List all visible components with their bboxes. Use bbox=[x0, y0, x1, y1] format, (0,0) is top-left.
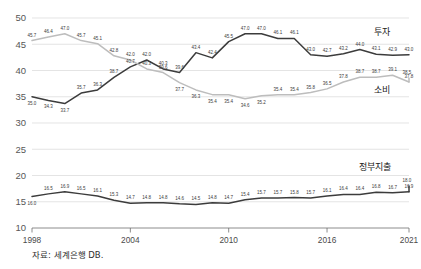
data-label: 42.4 bbox=[208, 50, 217, 55]
x-axis-labels: 19982004201020162021 bbox=[23, 235, 419, 245]
y-axis-tick-label: 50 bbox=[15, 12, 26, 23]
data-label: 36.3 bbox=[192, 94, 201, 99]
data-label: 37.8 bbox=[339, 74, 348, 79]
data-label: 43.1 bbox=[372, 46, 381, 51]
data-label: 16.0 bbox=[28, 201, 37, 206]
data-label: 42.0 bbox=[142, 52, 151, 57]
data-label: 42.8 bbox=[110, 48, 119, 53]
data-label: 36.5 bbox=[323, 81, 332, 86]
data-label: 16.9 bbox=[60, 184, 69, 189]
data-label: 39.6 bbox=[175, 65, 184, 70]
data-label: 34.6 bbox=[241, 103, 250, 108]
y-axis-labels: 101520253035404550 bbox=[15, 12, 26, 233]
series-line bbox=[32, 192, 409, 205]
data-label: 16.5 bbox=[44, 186, 53, 191]
data-label: 42.9 bbox=[388, 47, 397, 52]
data-label: 16.7 bbox=[388, 185, 397, 190]
data-label: 42.7 bbox=[323, 48, 332, 53]
data-label: 40.7 bbox=[126, 59, 135, 64]
chart-container: 101520253035404550 19982004201020162021 … bbox=[0, 0, 421, 269]
data-label: 46.1 bbox=[273, 30, 282, 35]
data-label: 35.2 bbox=[257, 100, 266, 105]
x-axis-tick-label: 2016 bbox=[318, 235, 337, 245]
data-label: 42.0 bbox=[126, 52, 135, 57]
data-label: 45.1 bbox=[93, 36, 102, 41]
data-label: 35.0 bbox=[28, 101, 37, 106]
data-label: 40.3 bbox=[142, 61, 151, 66]
data-label: 38.7 bbox=[372, 69, 381, 74]
data-label: 14.8 bbox=[208, 195, 217, 200]
data-label: 15.8 bbox=[290, 190, 299, 195]
data-label: 16.1 bbox=[93, 188, 102, 193]
data-label: 35.7 bbox=[77, 85, 86, 90]
data-label: 16.4 bbox=[339, 186, 348, 191]
data-label: 15.7 bbox=[306, 190, 315, 195]
line-chart-canvas: 101520253035404550 19982004201020162021 … bbox=[0, 0, 421, 269]
x-axis-tick-label: 2010 bbox=[219, 235, 238, 245]
y-axis-tick-label: 20 bbox=[15, 170, 26, 181]
data-label: 18.0 bbox=[403, 178, 412, 183]
data-label: 45.7 bbox=[28, 33, 37, 38]
data-label: 35.4 bbox=[208, 99, 217, 104]
data-label: 46.4 bbox=[44, 29, 53, 34]
data-label: 14.5 bbox=[192, 196, 201, 201]
x-axis-tick-label: 1998 bbox=[23, 235, 42, 245]
data-label: 47.0 bbox=[60, 26, 69, 31]
y-axis-tick-label: 10 bbox=[15, 222, 26, 233]
data-label: 16.1 bbox=[323, 188, 332, 193]
data-label: 16.5 bbox=[77, 186, 86, 191]
data-label: 14.8 bbox=[142, 195, 151, 200]
data-label: 16.9 bbox=[405, 184, 414, 189]
data-label: 15.4 bbox=[241, 192, 250, 197]
x-axis-tick-label: 2021 bbox=[400, 235, 419, 245]
data-label: 35.8 bbox=[306, 85, 315, 90]
data-label: 44.0 bbox=[355, 42, 364, 47]
data-label: 15.7 bbox=[257, 190, 266, 195]
y-axis-tick-label: 30 bbox=[15, 117, 26, 128]
data-label: 47.0 bbox=[257, 26, 266, 31]
data-label: 47.0 bbox=[241, 26, 250, 31]
data-label: 15.7 bbox=[273, 190, 282, 195]
x-axis bbox=[32, 228, 409, 233]
data-label: 16.4 bbox=[355, 186, 364, 191]
data-label: 35.4 bbox=[273, 87, 282, 92]
data-label: 14.7 bbox=[126, 195, 135, 200]
data-label: 15.3 bbox=[110, 192, 119, 197]
data-label: 38.7 bbox=[110, 69, 119, 74]
series-label-consumption: 소비 bbox=[374, 85, 390, 95]
series-label-government-expenditure: 정부지출 bbox=[359, 162, 391, 172]
data-label: 43.2 bbox=[339, 46, 348, 51]
data-label: 14.7 bbox=[224, 195, 233, 200]
data-label: 43.4 bbox=[192, 45, 201, 50]
data-label: 37.7 bbox=[175, 87, 184, 92]
data-label: 39.6 bbox=[159, 65, 168, 70]
series-line bbox=[32, 34, 409, 99]
data-label: 46.1 bbox=[290, 30, 299, 35]
x-axis-tick-label: 2004 bbox=[121, 235, 140, 245]
data-label: 35.4 bbox=[224, 99, 233, 104]
data-label: 45.5 bbox=[224, 34, 233, 39]
data-label: 38.5 bbox=[403, 70, 412, 75]
y-axis-tick-label: 45 bbox=[15, 39, 26, 50]
data-label: 43.0 bbox=[405, 47, 414, 52]
series-label-investment: 투자 bbox=[374, 27, 391, 37]
data-label: 34.3 bbox=[44, 104, 53, 109]
y-axis-tick-label: 40 bbox=[15, 65, 26, 76]
data-label: 14.8 bbox=[159, 195, 168, 200]
series-lines bbox=[32, 34, 409, 205]
y-axis-tick-label: 35 bbox=[15, 91, 26, 102]
data-label: 45.7 bbox=[77, 33, 86, 38]
y-axis-tick-label: 15 bbox=[15, 196, 26, 207]
data-label: 33.7 bbox=[60, 108, 69, 113]
data-label: 43.0 bbox=[306, 47, 315, 52]
source-note: 자료: 세계은행 DB. bbox=[32, 248, 103, 260]
data-label: 14.6 bbox=[175, 196, 184, 201]
data-label: 38.7 bbox=[355, 69, 364, 74]
data-label: 36.3 bbox=[93, 82, 102, 87]
y-axis-tick-label: 25 bbox=[15, 144, 26, 155]
data-label: 16.8 bbox=[372, 184, 381, 189]
data-point-labels: 35.034.333.735.736.338.740.742.040.339.6… bbox=[28, 26, 414, 206]
data-label: 39.1 bbox=[388, 67, 397, 72]
data-label: 35.4 bbox=[290, 87, 299, 92]
